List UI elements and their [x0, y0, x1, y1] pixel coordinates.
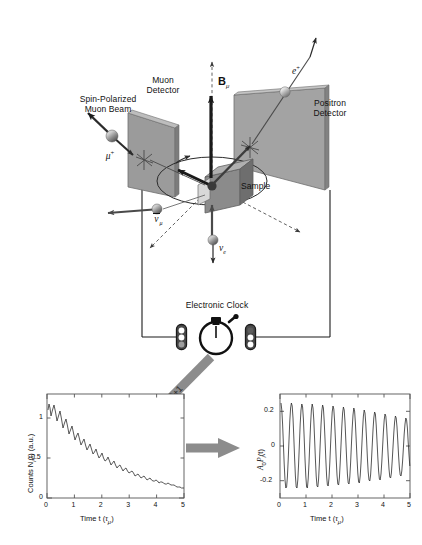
- magnetic-field-label: Bμ: [218, 76, 252, 91]
- asym-yaxis-title: A0Pi(t): [256, 449, 267, 470]
- asym-ytick-0: 0: [271, 441, 275, 448]
- asym-xtick-1: 1: [303, 501, 307, 508]
- counts-yaxis-title: Counts Ni(t) (a.u.): [26, 434, 37, 493]
- counts-xtick-2: 2: [99, 501, 103, 508]
- beam-label: Spin-Polarized Muon Beam: [62, 94, 154, 114]
- asym-xtick-5: 5: [407, 501, 411, 508]
- beam-label-line2: Muon Beam: [85, 104, 132, 114]
- muon-symbol-label: μ+: [95, 148, 125, 161]
- counts-plot: 0 1 2 3 4 5 0 0.5 1 Time t (τμ) Counts N…: [14, 388, 194, 543]
- neutrino-e-track: [208, 205, 218, 263]
- electronic-clock-label: Electronic Clock: [172, 300, 262, 310]
- positron-detector-label: Positron Detector: [290, 98, 370, 118]
- asym-xtick-4: 4: [381, 501, 385, 508]
- asym-ytick-02: 0.2: [264, 406, 274, 413]
- muon-detector-label: Muon Detector: [128, 75, 198, 95]
- sample-label: Sample: [241, 181, 289, 191]
- antineutrino-mu-label: νμ: [144, 214, 172, 228]
- counts-xaxis-title: Time t (τμ): [80, 514, 114, 525]
- asym-xaxis-title: Time t (τμ): [310, 514, 344, 525]
- counts-xtick-3: 3: [126, 501, 130, 508]
- muon-detector-label-line1: Muon: [152, 75, 174, 85]
- muon-detector-label-line2: Detector: [147, 85, 180, 95]
- antineutrino-mu-track: [108, 195, 205, 214]
- counts-xtick-4: 4: [154, 501, 158, 508]
- muon-particle: [106, 130, 118, 142]
- neutrino-particle: [208, 235, 218, 245]
- clock-indicator-right: [246, 325, 256, 350]
- positron-detector-label-line2: Detector: [314, 108, 347, 118]
- counts-xtick-5: 5: [181, 501, 185, 508]
- beam-label-line1: Spin-Polarized: [80, 94, 137, 104]
- asym-xtick-0: 0: [277, 501, 281, 508]
- muon-detector: [128, 110, 179, 197]
- electronic-clock: [177, 314, 256, 354]
- clock-indicator-left: [177, 325, 187, 350]
- asym-xtick-2: 2: [329, 501, 333, 508]
- asymmetry-plot: 0 1 2 3 4 5 -0.2 0 0.2 Time t (τμ) A0Pi(…: [240, 388, 420, 543]
- positron-detector-label-line1: Positron: [314, 98, 346, 108]
- asym-xtick-3: 3: [355, 501, 359, 508]
- positron-symbol-label: e+: [292, 63, 318, 76]
- counts-plot-frame: [47, 394, 184, 498]
- neutrino-e-label: νe: [219, 243, 245, 257]
- positron-particle: [280, 87, 290, 97]
- asym-ytick-neg02: -0.2: [260, 476, 272, 483]
- counts-ytick-1: 1: [39, 413, 43, 420]
- transform-arrow: [186, 438, 240, 458]
- counts-xtick-0: 0: [44, 501, 48, 508]
- counts-ytick-0: 0: [39, 493, 43, 500]
- counts-xtick-1: 1: [71, 501, 75, 508]
